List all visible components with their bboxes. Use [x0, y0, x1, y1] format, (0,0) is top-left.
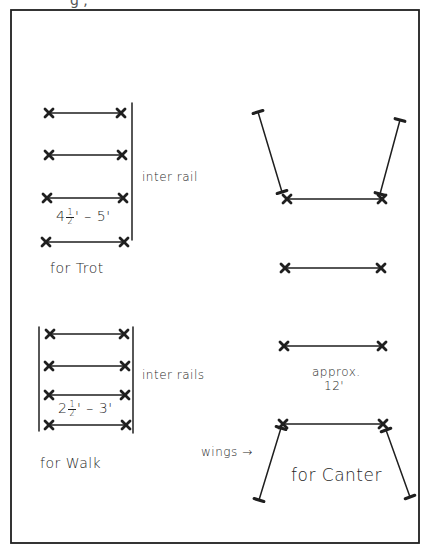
wings-label: wings →: [201, 445, 253, 459]
walk-caption: for Walk: [40, 455, 101, 471]
walk-pole: [45, 391, 129, 399]
trot-caption: for Trot: [50, 260, 104, 276]
trot-pole: [42, 238, 128, 246]
trot-spacing-rest: ' – 5': [75, 208, 111, 224]
wing-line: [258, 112, 282, 192]
arrow-right-icon: →: [242, 445, 253, 459]
canter-wing: [253, 111, 287, 194]
wing-cap: [277, 191, 287, 194]
walk-spacing-whole: 2: [58, 400, 67, 416]
trot-pole: [43, 194, 127, 202]
wing-cap: [254, 499, 264, 502]
wing-cap: [395, 119, 405, 122]
trot-pole: [45, 151, 126, 159]
trot-rail-label: inter rail: [142, 170, 198, 184]
wing-cap: [253, 111, 263, 114]
trot-spacing-fraction: 12: [66, 209, 74, 226]
canter-wing: [375, 119, 405, 196]
canter-spacing-value: 12': [324, 379, 344, 393]
trot-spacing-whole: 4: [56, 208, 65, 224]
canter-caption: for Canter: [291, 465, 382, 485]
walk-pole: [46, 330, 128, 338]
canter-wing: [381, 428, 414, 498]
trot-spacing-label: 412' – 5': [56, 208, 111, 226]
wings-label-text: wings: [201, 445, 238, 459]
walk-pole: [45, 362, 129, 370]
walk-spacing-rest: ' – 3': [77, 400, 113, 416]
canter-pole: [283, 195, 386, 203]
wing-line: [380, 120, 400, 194]
canter-pole: [281, 264, 385, 272]
walk-spacing-fraction: 12: [68, 401, 76, 418]
trot-pole: [45, 109, 125, 117]
wing-cap: [405, 495, 414, 498]
walk-rail-label: inter rails: [142, 368, 204, 382]
canter-wing: [254, 427, 286, 502]
canter-pole: [280, 342, 386, 350]
walk-pole: [45, 421, 130, 429]
wing-line: [386, 430, 410, 497]
wing-line: [259, 428, 281, 500]
canter-spacing-label: approx.: [312, 365, 361, 379]
walk-spacing-label: 212' – 3': [58, 400, 113, 418]
canter-pole: [279, 420, 387, 428]
canter-pole-group: [253, 111, 414, 502]
